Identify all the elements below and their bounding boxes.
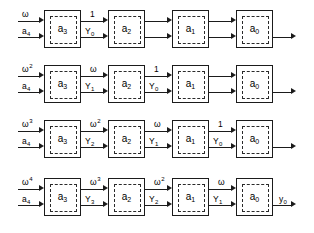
cell-label: a1: [173, 66, 208, 102]
link-label-upper: ω2: [154, 178, 164, 187]
processing-cell-a3[interactable]: a3: [44, 178, 81, 216]
link-arrow-upper: [167, 185, 172, 191]
link-label-lower: Y0: [213, 137, 222, 146]
link-arrow-lower: [103, 88, 108, 94]
input-arrow-lower: [39, 88, 44, 94]
link-wire-upper: [81, 189, 103, 190]
cell-label: a2: [109, 121, 144, 157]
input-wire-upper: [18, 189, 39, 190]
output-arrow: [291, 143, 296, 149]
processing-cell-a2[interactable]: a2: [108, 178, 145, 216]
link-arrow-lower: [231, 88, 236, 94]
link-wire-lower: [209, 147, 231, 148]
processing-cell-a1[interactable]: a1: [172, 65, 209, 103]
link-wire-lower: [145, 205, 167, 206]
cell-label: a1: [173, 121, 208, 157]
input-wire-lower: [18, 205, 39, 206]
output-arrow: [291, 88, 296, 94]
diagram-row: ω4a4a3a2a1a0ω3Y3ω2Y2ωY1y0: [0, 0, 314, 48]
link-arrow-upper: [103, 72, 108, 78]
block-diagram-canvas: ωa4a3a2a1a01Y0ω2a4a3a2a1a0ωY11Y0ω3a4a3a2…: [0, 0, 314, 233]
cell-label: a2: [109, 179, 144, 215]
input-label-coefficient: a4: [22, 137, 30, 146]
link-label-lower: Y2: [85, 137, 94, 146]
input-label-coefficient: a4: [22, 82, 30, 91]
link-arrow-upper: [103, 127, 108, 133]
link-label-lower: Y1: [213, 195, 222, 204]
input-arrow-lower: [39, 143, 44, 149]
link-arrow-lower: [103, 201, 108, 207]
output-arrow: [291, 201, 296, 207]
link-wire-upper: [81, 76, 103, 77]
input-wire-lower: [18, 92, 39, 93]
link-arrow-lower: [167, 201, 172, 207]
cell-label: a0: [237, 179, 272, 215]
link-wire-upper: [209, 131, 231, 132]
link-label-upper: 1: [218, 120, 223, 129]
link-arrow-upper: [167, 72, 172, 78]
link-arrow-lower: [103, 143, 108, 149]
processing-cell-a1[interactable]: a1: [172, 120, 209, 158]
link-label-upper: 1: [154, 65, 159, 74]
link-label-upper: ω3: [90, 178, 100, 187]
link-wire-upper: [145, 131, 167, 132]
input-arrow-upper: [39, 127, 44, 133]
cell-label: a2: [109, 66, 144, 102]
cell-label: a1: [173, 179, 208, 215]
link-wire-upper: [209, 189, 231, 190]
output-wire: [273, 147, 291, 148]
link-label-lower: Y1: [85, 82, 94, 91]
input-wire-upper: [18, 76, 39, 77]
output-label: y0: [279, 195, 287, 204]
link-arrow-lower: [231, 143, 236, 149]
input-wire-upper: [18, 131, 39, 132]
processing-cell-a2[interactable]: a2: [108, 65, 145, 103]
link-arrow-upper: [167, 127, 172, 133]
link-arrow-lower: [167, 88, 172, 94]
link-wire-lower: [81, 205, 103, 206]
link-arrow-lower: [231, 201, 236, 207]
link-wire-upper: [145, 76, 167, 77]
input-arrow-upper: [39, 185, 44, 191]
processing-cell-a3[interactable]: a3: [44, 65, 81, 103]
processing-cell-a0[interactable]: a0: [236, 65, 273, 103]
link-arrow-upper: [103, 185, 108, 191]
input-label-omega: ω4: [22, 178, 32, 187]
link-label-lower: Y2: [149, 195, 158, 204]
link-arrow-upper: [231, 185, 236, 191]
cell-label: a3: [45, 179, 80, 215]
link-wire-upper: [145, 189, 167, 190]
link-label-upper: ω: [90, 65, 97, 74]
output-wire: [273, 92, 291, 93]
link-wire-lower: [145, 92, 167, 93]
input-label-omega: ω3: [22, 120, 32, 129]
cell-label: a3: [45, 121, 80, 157]
processing-cell-a3[interactable]: a3: [44, 120, 81, 158]
input-wire-lower: [18, 147, 39, 148]
link-wire-lower: [209, 205, 231, 206]
link-wire-upper: [209, 76, 231, 77]
link-arrow-upper: [231, 72, 236, 78]
processing-cell-a1[interactable]: a1: [172, 178, 209, 216]
link-label-upper: ω: [154, 120, 161, 129]
link-wire-lower: [209, 92, 231, 93]
link-label-lower: Y1: [149, 137, 158, 146]
output-wire: [273, 205, 291, 206]
link-wire-lower: [81, 147, 103, 148]
processing-cell-a0[interactable]: a0: [236, 178, 273, 216]
processing-cell-a0[interactable]: a0: [236, 120, 273, 158]
cell-label: a0: [237, 66, 272, 102]
input-arrow-upper: [39, 72, 44, 78]
input-arrow-lower: [39, 201, 44, 207]
link-label-lower: Y0: [149, 82, 158, 91]
link-label-upper: ω2: [90, 120, 100, 129]
cell-label: a3: [45, 66, 80, 102]
link-wire-lower: [145, 147, 167, 148]
link-arrow-upper: [231, 127, 236, 133]
link-arrow-lower: [167, 143, 172, 149]
link-wire-lower: [81, 92, 103, 93]
link-label-upper: ω: [218, 178, 225, 187]
input-label-omega: ω2: [22, 65, 32, 74]
link-wire-upper: [81, 131, 103, 132]
processing-cell-a2[interactable]: a2: [108, 120, 145, 158]
